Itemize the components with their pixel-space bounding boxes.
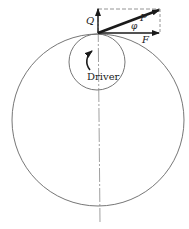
label-q: Q xyxy=(86,15,94,26)
label-p: P xyxy=(139,12,147,23)
gear-force-diagram: Q P φ F Driver xyxy=(0,0,189,229)
center-line xyxy=(98,8,100,222)
label-phi: φ xyxy=(131,21,138,31)
label-driver: Driver xyxy=(87,71,120,82)
label-f: F xyxy=(141,34,150,45)
p-force-arrow xyxy=(98,10,159,33)
rotation-arrow-icon xyxy=(87,51,92,70)
driven-gear-circle xyxy=(12,34,184,206)
